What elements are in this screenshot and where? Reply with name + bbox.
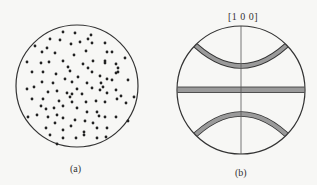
point [58,100,61,103]
point [67,66,70,69]
point [91,42,94,45]
point [104,101,107,104]
point [106,92,109,95]
point [49,134,52,137]
point [127,79,130,82]
point [47,91,50,94]
point [69,96,72,99]
point [86,82,89,85]
panel-a-dots [26,31,136,146]
point [92,122,95,125]
point [125,102,128,105]
point [62,129,65,132]
point [54,52,57,55]
point [99,75,102,78]
caption-a: (a) [70,164,81,174]
point [42,71,45,74]
point [56,114,59,117]
point [26,61,29,64]
point [87,38,90,41]
point [26,88,29,91]
point [47,116,50,119]
point [102,86,105,89]
point [71,101,74,104]
point [55,73,58,76]
point [79,41,82,44]
point [84,120,87,123]
point [117,67,120,70]
point [87,67,90,70]
point [52,82,55,85]
point [34,45,37,48]
point [83,131,86,134]
point [62,117,65,120]
point [71,93,74,96]
point [115,116,118,119]
point [48,61,51,64]
panel-b-projection [170,26,312,154]
point [85,101,88,104]
point [74,119,77,122]
point [56,90,59,93]
point [76,107,79,110]
point [111,79,114,82]
caption-b: (b) [235,168,247,178]
point [56,143,59,146]
point [104,42,107,45]
point [106,51,109,54]
point [71,81,74,84]
point [105,136,108,139]
point [95,100,98,103]
point [41,81,44,84]
point [91,87,94,90]
point [74,32,77,35]
point [62,137,65,140]
point [120,95,123,98]
point [133,96,136,99]
point [40,62,43,65]
point [40,105,43,108]
point [53,107,56,110]
point [46,47,49,50]
point [59,39,62,42]
point [104,62,107,65]
point [62,60,65,63]
figure [0,0,317,185]
point [54,122,57,125]
point [27,116,30,119]
point [70,43,73,46]
point [42,98,45,101]
point [49,38,52,41]
point [83,134,86,137]
point [82,63,85,66]
point [92,60,95,63]
point [127,120,130,123]
point [36,114,39,117]
point [77,76,80,79]
point [106,127,109,130]
point [115,63,118,66]
point [76,88,79,91]
point [100,82,103,85]
point [62,105,65,108]
point [99,89,102,92]
point [31,98,34,101]
point [115,72,118,75]
point [73,54,76,57]
point [31,71,34,74]
point [98,115,101,118]
point [115,89,118,92]
point [106,78,109,81]
point [124,57,127,60]
point [96,127,99,130]
point [45,127,48,130]
point [70,125,73,128]
point [86,111,89,114]
panel-a-random-points [16,25,138,147]
point [90,34,93,37]
point [41,51,44,54]
point [96,137,99,140]
point [64,78,67,81]
point [111,51,114,54]
point [104,116,107,119]
